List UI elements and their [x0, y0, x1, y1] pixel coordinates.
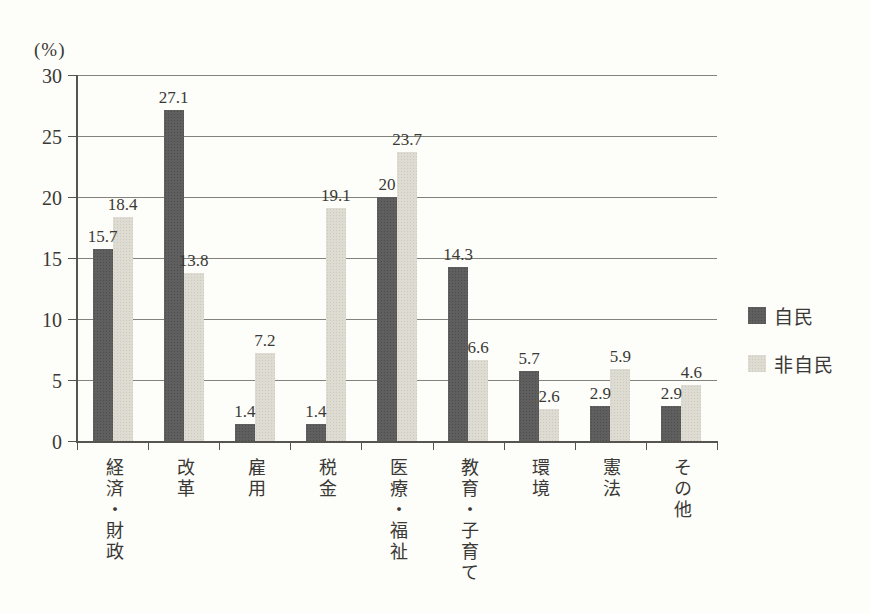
- value-label-s0-c8: 2.9: [661, 384, 682, 404]
- x-tick-9: [717, 442, 718, 450]
- x-category-label-3: 税金: [317, 458, 335, 500]
- value-label-s0-c4: 20: [379, 175, 396, 195]
- value-label-s1-c1: 13.8: [179, 251, 209, 271]
- bar-s0-c2: [235, 424, 255, 441]
- x-tick-4: [361, 442, 362, 450]
- y-tick-label-20: 20: [42, 187, 62, 210]
- x-category-label-5: 教育・子育て: [459, 458, 477, 584]
- y-tick-20: [68, 197, 77, 198]
- value-label-s0-c5: 14.3: [443, 245, 473, 265]
- x-category-label-8: その他: [672, 458, 690, 521]
- y-tick-30: [68, 75, 77, 76]
- y-tick-5: [68, 380, 77, 381]
- bar-s0-c4: [377, 197, 397, 441]
- y-tick-15: [68, 258, 77, 259]
- y-tick-label-0: 0: [52, 431, 62, 454]
- value-label-s1-c3: 19.1: [321, 186, 351, 206]
- bar-s0-c6: [519, 371, 539, 441]
- bar-s1-c2: [255, 353, 275, 441]
- bar-s0-c0: [93, 249, 113, 441]
- value-label-s1-c4: 23.7: [392, 130, 422, 150]
- bar-s1-c1: [184, 273, 204, 441]
- legend-item-jimin: 自民: [748, 302, 834, 329]
- value-label-s0-c3: 1.4: [305, 402, 326, 422]
- y-tick-label-30: 30: [42, 65, 62, 88]
- x-category-label-7: 憲法: [601, 458, 619, 500]
- value-label-s0-c2: 1.4: [234, 402, 255, 422]
- bar-s1-c7: [610, 369, 630, 441]
- bar-s1-c4: [397, 152, 417, 441]
- plot-area: 05101520253015.718.4経済・財政27.113.8改革1.47.…: [0, 0, 870, 613]
- bar-s1-c0: [113, 217, 133, 441]
- x-tick-6: [504, 442, 505, 450]
- legend-item-hijimin: 非自民: [748, 350, 834, 377]
- x-tick-8: [646, 442, 647, 450]
- bar-s0-c7: [590, 406, 610, 441]
- x-axis-line: [76, 441, 718, 443]
- value-label-s1-c5: 6.6: [467, 338, 488, 358]
- x-category-label-4: 医療・福祉: [388, 458, 406, 563]
- y-tick-25: [68, 136, 77, 137]
- y-tick-10: [68, 319, 77, 320]
- value-label-s0-c0: 15.7: [88, 227, 118, 247]
- y-axis-line: [76, 75, 78, 443]
- y-tick-label-5: 5: [52, 370, 62, 393]
- gridline-30: [77, 75, 717, 76]
- value-label-s0-c6: 5.7: [519, 349, 540, 369]
- x-tick-0: [77, 442, 78, 450]
- x-category-label-2: 雇用: [246, 458, 264, 500]
- x-tick-1: [148, 442, 149, 450]
- x-category-label-1: 改革: [175, 458, 193, 500]
- legend-label-jimin: 自民: [774, 302, 814, 329]
- y-tick-label-10: 10: [42, 309, 62, 332]
- value-label-s0-c1: 27.1: [159, 88, 189, 108]
- legend-swatch-jimin: [748, 307, 766, 324]
- x-tick-7: [575, 442, 576, 450]
- legend: 自民 非自民: [748, 302, 834, 398]
- x-tick-2: [219, 442, 220, 450]
- y-tick-0: [68, 441, 77, 442]
- value-label-s1-c0: 18.4: [108, 195, 138, 215]
- value-label-s1-c8: 4.6: [681, 363, 702, 383]
- y-tick-label-25: 25: [42, 126, 62, 149]
- bar-s1-c3: [326, 208, 346, 441]
- legend-label-hijimin: 非自民: [774, 350, 834, 377]
- value-label-s0-c7: 2.9: [590, 384, 611, 404]
- value-label-s1-c7: 5.9: [610, 347, 631, 367]
- bar-s0-c8: [661, 406, 681, 441]
- bar-s0-c1: [164, 110, 184, 441]
- x-category-label-6: 環境: [530, 458, 548, 500]
- bar-s1-c8: [681, 385, 701, 441]
- x-category-label-0: 経済・財政: [104, 458, 122, 563]
- bar-s0-c5: [448, 267, 468, 441]
- y-tick-label-15: 15: [42, 248, 62, 271]
- value-label-s1-c2: 7.2: [254, 331, 275, 351]
- bar-chart-figure: (%) 05101520253015.718.4経済・財政27.113.8改革1…: [0, 0, 870, 613]
- value-label-s1-c6: 2.6: [539, 387, 560, 407]
- bar-s0-c3: [306, 424, 326, 441]
- bar-s1-c5: [468, 360, 488, 441]
- x-tick-3: [290, 442, 291, 450]
- x-tick-5: [433, 442, 434, 450]
- bar-s1-c6: [539, 409, 559, 441]
- legend-swatch-hijimin: [748, 355, 766, 372]
